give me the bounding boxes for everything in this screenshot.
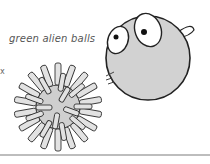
alien-eye-ball-icon (104, 10, 194, 100)
bottom-rule (0, 154, 210, 156)
illustration (0, 0, 210, 164)
spiky-ball-icon (14, 63, 102, 151)
